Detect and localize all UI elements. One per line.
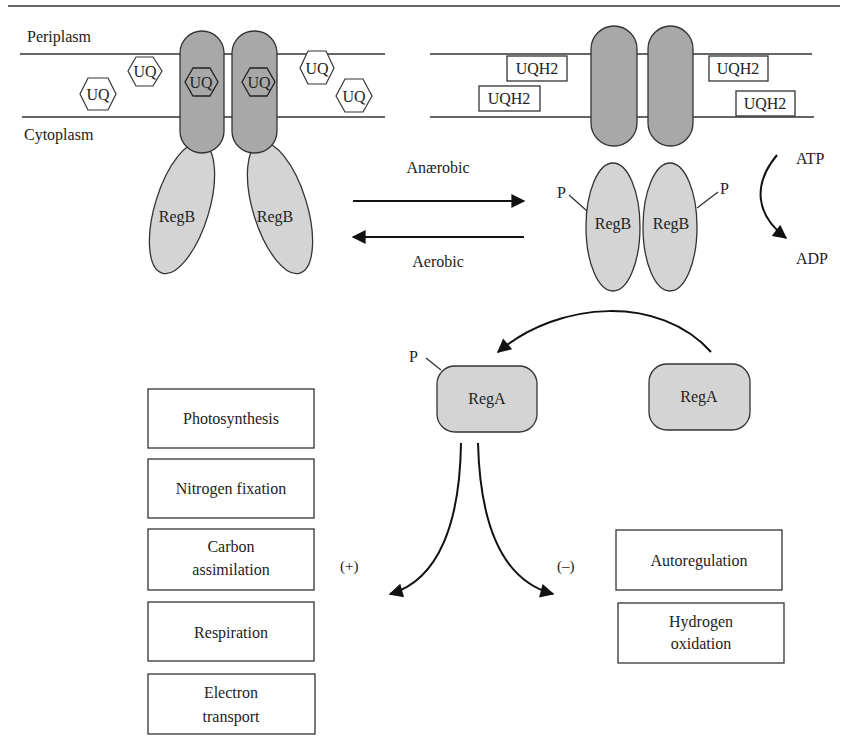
process-box-electron-transport — [148, 674, 315, 734]
atp-label: ATP — [796, 150, 825, 167]
phosphate-label: P — [409, 348, 418, 365]
svg-text:UQH2: UQH2 — [516, 60, 559, 77]
svg-text:Autoregulation: Autoregulation — [651, 552, 748, 570]
regb-transmembrane-domain — [591, 26, 637, 146]
svg-text:Respiration: Respiration — [194, 624, 268, 642]
adp-label: ADP — [796, 250, 828, 267]
svg-text:Nitrogen fixation: Nitrogen fixation — [176, 480, 287, 498]
repressed-processes: Autoregulation Hydrogen oxidation — [616, 530, 784, 663]
positive-sign: (+) — [340, 558, 358, 575]
rega-label: RegA — [468, 390, 506, 408]
rega-unphosphorylated: RegA — [649, 364, 750, 430]
svg-text:UQH2: UQH2 — [744, 95, 787, 112]
free-ubiquinone-pool: UQ UQ UQ UQ — [80, 51, 372, 112]
rega-phosphorylated: P RegA — [409, 348, 537, 432]
activation-arrow — [390, 443, 461, 594]
negative-sign: (–) — [557, 558, 575, 575]
cytoplasm-label: Cytoplasm — [24, 126, 94, 144]
regb-label: RegB — [257, 208, 293, 226]
svg-text:UQ: UQ — [342, 88, 366, 105]
svg-text:assimilation: assimilation — [192, 561, 269, 578]
svg-text:Hydrogen: Hydrogen — [669, 613, 733, 631]
regb-dimer-phosphorylated: P P RegB RegB — [557, 26, 729, 291]
svg-text:UQH2: UQH2 — [488, 90, 531, 107]
svg-text:UQ: UQ — [133, 63, 157, 80]
regb-label: RegB — [653, 215, 689, 233]
atp-hydrolysis-arrow — [761, 155, 786, 238]
activated-processes: Photosynthesis Nitrogen fixation Carbon … — [148, 389, 315, 734]
svg-text:UQ: UQ — [86, 86, 110, 103]
svg-text:oxidation: oxidation — [671, 635, 731, 652]
rega-label: RegA — [680, 388, 718, 406]
svg-text:Carbon: Carbon — [207, 538, 254, 555]
regb-dimer-oxidized: UQ UQ RegB RegB — [136, 31, 325, 281]
svg-text:Photosynthesis: Photosynthesis — [183, 410, 279, 428]
phosphotransfer-arrow — [498, 311, 711, 352]
repression-arrow — [478, 443, 553, 594]
phosphate-label: P — [557, 184, 566, 201]
regb-label: RegB — [595, 215, 631, 233]
regb-transmembrane-domain — [648, 26, 693, 146]
regb-rega-signaling-diagram: Periplasm Cytoplasm UQ UQ RegB RegB UQ U… — [0, 0, 847, 756]
svg-text:Electron: Electron — [204, 684, 258, 701]
periplasm-label: Periplasm — [27, 28, 92, 46]
phosphate-label: P — [720, 180, 729, 197]
regb-transmembrane-domain — [180, 31, 224, 153]
process-box-hydrogen-oxidation — [618, 603, 784, 663]
svg-text:UQ: UQ — [305, 60, 329, 77]
aerobic-label: Aerobic — [412, 253, 464, 270]
bound-quinone-label: UQ — [189, 74, 213, 91]
svg-text:transport: transport — [203, 708, 260, 726]
regb-transmembrane-domain — [232, 31, 277, 153]
bound-quinone-label: UQ — [247, 74, 271, 91]
regb-label: RegB — [159, 208, 195, 226]
anaerobic-label: Anærobic — [406, 159, 469, 176]
svg-text:UQH2: UQH2 — [717, 60, 760, 77]
